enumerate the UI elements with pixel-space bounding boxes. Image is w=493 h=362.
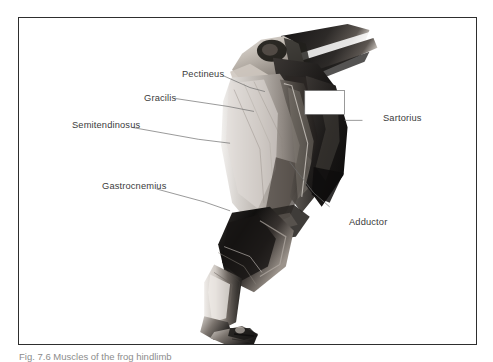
label-semitendinosus: Semitendinosus bbox=[72, 121, 140, 130]
sartorius-callout-box bbox=[305, 91, 345, 115]
label-pectineus: Pectineus bbox=[182, 70, 224, 79]
label-adductor: Adductor bbox=[349, 218, 387, 227]
leader-line-semitendinosus bbox=[132, 127, 231, 143]
figure-caption: Fig. 7.6 Muscles of the frog hindlimb bbox=[19, 352, 439, 362]
label-gracilis: Gracilis bbox=[144, 94, 176, 103]
label-sartorius: Sartorius bbox=[383, 114, 422, 123]
figure-frame: Pectineus Gracilis Semitendinosus Gastro… bbox=[18, 17, 477, 345]
leader-line-gastrocnemius bbox=[156, 189, 230, 211]
anatomical-illustration bbox=[19, 18, 476, 344]
label-gastrocnemius: Gastrocnemius bbox=[102, 182, 166, 191]
